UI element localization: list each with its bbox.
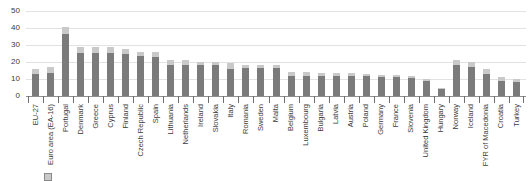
x-axis-tick-label: Latvia bbox=[332, 104, 340, 124]
bar[interactable] bbox=[273, 65, 280, 96]
bar[interactable] bbox=[257, 65, 264, 96]
x-axis-tick-label: Cyprus bbox=[107, 104, 115, 128]
bar-slot bbox=[329, 11, 344, 96]
bar-segment-upper bbox=[152, 52, 159, 57]
bar-slot bbox=[464, 11, 479, 96]
bar-slot bbox=[509, 11, 524, 96]
x-axis-label-slot: Malta bbox=[269, 104, 284, 180]
y-axis-tick-label: 30 bbox=[11, 41, 20, 49]
x-axis-tick bbox=[419, 96, 434, 103]
bar-segment-upper bbox=[363, 74, 370, 77]
x-axis-tick-label: Ireland bbox=[197, 104, 205, 127]
bar-slot bbox=[359, 11, 374, 96]
tick-mark bbox=[314, 96, 315, 103]
bar-slot bbox=[253, 11, 268, 96]
bar[interactable] bbox=[167, 60, 174, 96]
bar[interactable] bbox=[348, 73, 355, 96]
bar[interactable] bbox=[438, 88, 445, 97]
tick-mark bbox=[374, 96, 375, 103]
tick-mark bbox=[389, 96, 390, 103]
tick-mark bbox=[449, 96, 450, 103]
bar-slot bbox=[449, 11, 464, 96]
bar[interactable] bbox=[92, 47, 99, 96]
bar-slot bbox=[344, 11, 359, 96]
x-axis-label-slot: Ireland bbox=[193, 104, 208, 180]
tick-mark bbox=[223, 96, 224, 103]
x-axis-tick-label: Norway bbox=[453, 104, 461, 129]
bar-segment-upper bbox=[182, 60, 189, 64]
bar[interactable] bbox=[513, 79, 520, 96]
bar-segment-upper bbox=[483, 69, 490, 74]
x-axis-tick-label: France bbox=[393, 104, 401, 127]
bar[interactable] bbox=[47, 67, 54, 96]
x-axis-tick bbox=[88, 96, 103, 103]
bar[interactable] bbox=[107, 47, 114, 96]
bar-segment-upper bbox=[333, 73, 340, 76]
x-axis-tick bbox=[253, 96, 268, 103]
x-axis-label-slot: Luxembourg bbox=[299, 104, 314, 180]
bar-segment-upper bbox=[242, 65, 249, 68]
x-axis-label-slot: France bbox=[389, 104, 404, 180]
x-axis-label-slot: Euro area (EA-16) bbox=[43, 104, 58, 180]
bar[interactable] bbox=[333, 73, 340, 96]
x-axis-tick-label: Italy bbox=[227, 104, 235, 118]
bar-segment-upper bbox=[513, 79, 520, 82]
bar[interactable] bbox=[363, 74, 370, 96]
bar-segment-upper bbox=[137, 52, 144, 56]
bar[interactable] bbox=[32, 69, 39, 96]
bar[interactable] bbox=[318, 73, 325, 96]
bar[interactable] bbox=[453, 60, 460, 96]
x-axis-label-slot: Croatia bbox=[494, 104, 509, 180]
bar[interactable] bbox=[122, 49, 129, 96]
tick-mark bbox=[434, 96, 435, 103]
x-axis-tick-label: Czech Republic bbox=[137, 104, 145, 157]
bar[interactable] bbox=[288, 72, 295, 96]
bar[interactable] bbox=[483, 69, 490, 96]
bar[interactable] bbox=[423, 79, 430, 96]
x-axis-tick bbox=[28, 96, 43, 103]
x-axis-tick bbox=[494, 96, 509, 103]
bar[interactable] bbox=[378, 75, 385, 96]
bar-slot bbox=[58, 11, 73, 96]
tick-mark bbox=[28, 96, 29, 103]
bar-segment-upper bbox=[92, 47, 99, 53]
tick-mark bbox=[178, 96, 179, 103]
bar[interactable] bbox=[227, 63, 234, 96]
x-axis-tick-label: Poland bbox=[362, 104, 370, 127]
bar[interactable] bbox=[303, 72, 310, 96]
tick-mark bbox=[103, 96, 104, 103]
tick-mark bbox=[208, 96, 209, 103]
bar-slot bbox=[148, 11, 163, 96]
x-axis-tick bbox=[374, 96, 389, 103]
chart-legend bbox=[44, 172, 56, 181]
bar[interactable] bbox=[393, 75, 400, 96]
x-axis: EU-27Euro area (EA-16)PortugalDenmarkGre… bbox=[26, 96, 526, 181]
bar[interactable] bbox=[137, 52, 144, 96]
x-axis-label-slot: Slovakia bbox=[208, 104, 223, 180]
bar[interactable] bbox=[408, 76, 415, 96]
x-axis-tick-label: Euro area (EA-16) bbox=[47, 104, 55, 165]
bar[interactable] bbox=[152, 52, 159, 96]
bar-segment-upper bbox=[468, 62, 475, 67]
bar-segment-upper bbox=[438, 88, 445, 90]
bar[interactable] bbox=[242, 65, 249, 96]
bar-segment-upper bbox=[122, 49, 129, 53]
bar[interactable] bbox=[498, 77, 505, 96]
bar-series-container bbox=[26, 11, 526, 96]
y-axis: 01020304050 bbox=[0, 0, 24, 110]
bar[interactable] bbox=[182, 60, 189, 96]
x-axis-tick-label: Bulgaria bbox=[317, 104, 325, 132]
bar[interactable] bbox=[62, 27, 69, 96]
x-axis-tick-label: Hungary bbox=[438, 104, 446, 132]
x-axis-label-slot: Sweden bbox=[253, 104, 268, 180]
tick-mark bbox=[299, 96, 300, 103]
tick-mark bbox=[163, 96, 164, 103]
x-axis-tick-label: EU-27 bbox=[32, 104, 40, 125]
bar[interactable] bbox=[212, 62, 219, 96]
bar[interactable] bbox=[468, 62, 475, 96]
x-axis-tick bbox=[118, 96, 133, 103]
x-axis-tick bbox=[43, 96, 58, 103]
x-axis-tick bbox=[284, 96, 299, 103]
bar[interactable] bbox=[197, 62, 204, 96]
bar[interactable] bbox=[77, 47, 84, 96]
